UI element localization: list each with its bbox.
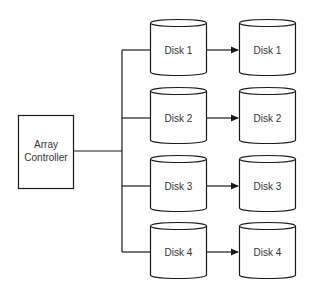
disk-cylinder-left-4: Disk 4: [151, 223, 207, 279]
disk-label: Disk 3: [165, 181, 193, 192]
raid-mirroring-diagram: Array Controller Disk 1 Disk 2 Disk 3 Di…: [0, 0, 311, 293]
disk-label: Disk 3: [254, 181, 282, 192]
controller-label-line1: Array: [34, 139, 58, 150]
disk-cylinder-left-3: Disk 3: [151, 156, 207, 212]
controller-label-line2: Controller: [24, 152, 68, 163]
disk-cylinder-right-2: Disk 2: [240, 88, 296, 144]
disk-label: Disk 2: [254, 113, 282, 124]
mirror-arrows: [207, 50, 238, 252]
disk-cylinder-right-3: Disk 3: [240, 156, 296, 212]
connector-lines: [74, 50, 151, 252]
array-controller-box: Array Controller: [19, 116, 74, 189]
disk-cylinder-left-2: Disk 2: [151, 88, 207, 144]
disk-label: Disk 1: [165, 45, 193, 56]
disk-cylinder-left-1: Disk 1: [151, 20, 207, 76]
disk-cylinder-right-1: Disk 1: [240, 20, 296, 76]
disk-label: Disk 1: [254, 45, 282, 56]
disk-label: Disk 4: [165, 247, 193, 258]
disk-label: Disk 2: [165, 113, 193, 124]
disk-label: Disk 4: [254, 247, 282, 258]
disk-cylinder-right-4: Disk 4: [240, 223, 296, 279]
